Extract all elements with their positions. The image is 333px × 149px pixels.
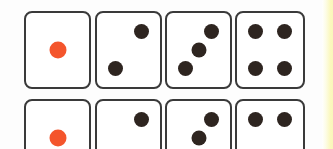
pip-top-right	[134, 112, 149, 127]
die-face-two[interactable]	[95, 99, 162, 149]
pip-top-left	[248, 112, 263, 127]
pip-bottom-right	[277, 61, 292, 76]
die-face-four[interactable]	[235, 99, 305, 149]
pip-top-right	[134, 24, 149, 39]
pip-center	[49, 42, 66, 59]
pip-top-left	[248, 24, 263, 39]
pip-top-right	[277, 24, 292, 39]
pip-bottom-left	[248, 61, 263, 76]
pip-top-right	[204, 112, 219, 127]
die-face-three[interactable]	[165, 11, 232, 89]
pip-bottom-left	[178, 61, 193, 76]
die-face-three[interactable]	[165, 99, 232, 149]
pip-top-right	[204, 24, 219, 39]
pip-bottom-left	[108, 61, 123, 76]
die-face-one[interactable]	[24, 99, 91, 149]
pip-center	[191, 131, 206, 146]
dice-grid	[0, 0, 333, 149]
dice-row-bottom	[24, 99, 314, 149]
page-edge-strip	[322, 0, 333, 149]
die-face-two[interactable]	[95, 11, 162, 89]
pip-top-right	[277, 112, 292, 127]
pip-center	[49, 130, 66, 147]
pip-center	[191, 43, 206, 58]
die-face-four[interactable]	[235, 11, 305, 89]
dice-row-top	[24, 11, 314, 89]
die-face-one[interactable]	[24, 11, 91, 89]
dice-illustration-canvas	[0, 0, 333, 149]
